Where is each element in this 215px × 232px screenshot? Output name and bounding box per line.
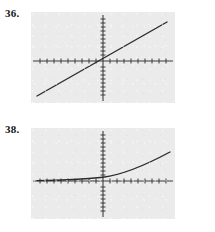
graph-panel-38 (31, 128, 175, 219)
problem-number-label: 36. (5, 8, 19, 19)
graph-canvas-38 (31, 128, 175, 219)
problem-number-label: 38. (5, 124, 19, 135)
graph-canvas-36 (31, 12, 175, 103)
problem-item: 36. (0, 0, 215, 116)
worksheet-page: 36. (0, 0, 215, 232)
problem-item: 38. (0, 116, 215, 232)
graph-panel-36 (31, 12, 175, 103)
